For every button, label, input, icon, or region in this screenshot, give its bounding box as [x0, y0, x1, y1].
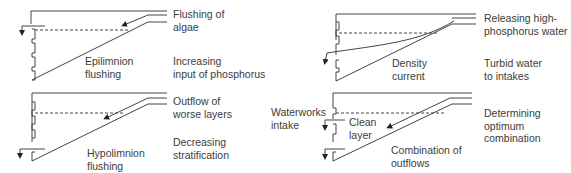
combination-title: Combination of outflows — [391, 144, 462, 169]
label-line: Clean — [349, 116, 376, 129]
outlet-arrow — [325, 53, 327, 62]
label-line: algae — [173, 21, 224, 34]
label-line: input of phosphorus — [173, 68, 265, 81]
label-line: Density — [392, 57, 427, 70]
hypolimnion-effect: Outflow of worse layers — [173, 95, 232, 120]
label-line: stratification — [173, 149, 229, 162]
label-line: Increasing — [173, 55, 265, 68]
dam-top — [333, 93, 472, 108]
label-line: outflows — [391, 157, 462, 170]
label-line: Turbid water — [484, 57, 542, 70]
hypolimnion-title: Hypolimnion flushing — [87, 147, 145, 172]
label-line: Epilimnion — [85, 55, 133, 68]
epilimnion-effect: Flushing of algae — [173, 8, 224, 33]
label-line: flushing — [85, 68, 133, 81]
label-line: layer — [349, 129, 376, 142]
label-line: Outflow of — [173, 95, 232, 108]
label-line: Hypolimnion — [87, 147, 145, 160]
label-line: Determining — [484, 107, 541, 120]
label-line: current — [392, 70, 427, 83]
combination-effect: Determining optimum combination — [484, 107, 541, 145]
dam-top — [32, 93, 167, 142]
density-effect: Releasing high- phosphorus water — [484, 12, 567, 37]
hypolimnion-consequence: Decreasing stratification — [173, 136, 229, 161]
density-current — [327, 21, 454, 53]
label-line: worse layers — [173, 108, 232, 121]
label-line: phosphorus water — [484, 25, 567, 38]
dam-top — [31, 11, 167, 24]
label-line: Decreasing — [173, 136, 229, 149]
epilimnion-title: Epilimnion flushing — [85, 55, 133, 80]
label-line: Releasing high- — [484, 12, 567, 25]
middle-wall — [333, 124, 336, 142]
label-line: combination — [484, 132, 541, 145]
label-line: optimum — [484, 120, 541, 133]
label-line: Combination of — [391, 144, 462, 157]
lower-wall — [336, 60, 339, 81]
stepped-wall — [333, 108, 336, 119]
epilimnion-consequence: Increasing input of phosphorus — [173, 55, 265, 80]
label-line: flushing — [87, 160, 145, 173]
stepped-wall — [32, 29, 35, 80]
density-title: Density current — [392, 57, 427, 82]
inflow-arrow — [106, 98, 167, 118]
label-line: Flushing of — [173, 8, 224, 21]
waterworks-intake-label: Waterworks intake — [271, 106, 326, 131]
label-line: intake — [271, 119, 326, 132]
label-line: Waterworks — [271, 106, 326, 119]
clean-layer-label: Clean layer — [349, 116, 376, 141]
density-consequence: Turbid water to intakes — [484, 57, 542, 82]
label-line: to intakes — [484, 70, 542, 83]
